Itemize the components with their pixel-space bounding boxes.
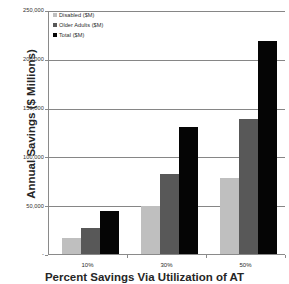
bar-chart: Annual Savings ($ Millions) -50,000100,0… (0, 0, 289, 284)
bars-layer (48, 11, 285, 255)
legend-item: Disabled ($M) (53, 12, 103, 18)
y-tick-label: 100,000 (8, 154, 44, 160)
legend-item: Total ($M) (53, 32, 103, 38)
y-tick-label: 150,000 (8, 105, 44, 111)
bar (62, 238, 81, 255)
bar-group (206, 11, 285, 255)
legend-swatch-icon (53, 23, 57, 27)
x-tick-label: 30% (147, 262, 187, 268)
bar (100, 211, 119, 255)
plot-area (48, 11, 285, 255)
y-tick-label: 200,000 (8, 56, 44, 62)
x-tick-mark (127, 255, 128, 258)
x-tick-label: 10% (68, 262, 108, 268)
y-tick-label: 50,000 (8, 203, 44, 209)
x-axis-baseline (48, 254, 285, 255)
y-tick-label: - (8, 251, 44, 257)
x-tick-mark (206, 255, 207, 258)
chart-legend: Disabled ($M)Older Adults ($M)Total ($M) (53, 12, 103, 38)
legend-swatch-icon (53, 33, 57, 37)
bar (220, 178, 239, 255)
legend-label: Total ($M) (59, 32, 84, 38)
bar (141, 206, 160, 255)
bar (258, 41, 277, 255)
legend-label: Older Adults ($M) (59, 22, 103, 28)
legend-item: Older Adults ($M) (53, 22, 103, 28)
y-tick-label: 250,000 (8, 7, 44, 13)
x-tick-label: 50% (226, 262, 266, 268)
legend-label: Disabled ($M) (59, 12, 94, 18)
bar (239, 119, 258, 255)
x-tick-mark (285, 255, 286, 258)
bar-group (127, 11, 206, 255)
bar (81, 228, 100, 255)
bar-group (48, 11, 127, 255)
y-tick-mark (45, 255, 48, 256)
x-axis-title: Percent Savings Via Utilization of AT (0, 271, 289, 283)
bar (179, 127, 198, 255)
legend-swatch-icon (53, 13, 57, 17)
bar (160, 174, 179, 255)
